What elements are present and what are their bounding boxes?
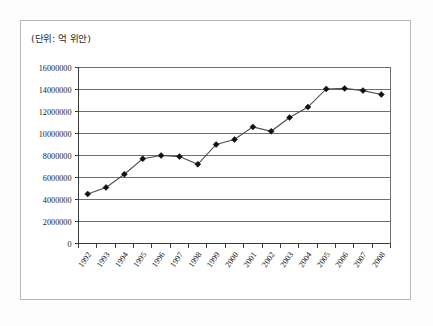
- y-tick-label: 4000000: [43, 196, 72, 205]
- data-point-marker: [378, 91, 384, 97]
- chart-svg: 0200000040000006000000800000010000000120…: [0, 0, 433, 326]
- x-tick-label: 1997: [168, 250, 185, 269]
- x-tick-label: 2005: [315, 250, 332, 269]
- x-tick-label: 1992: [77, 250, 94, 269]
- x-tick-label: 2000: [223, 250, 240, 269]
- y-tick-label: 8000000: [43, 152, 72, 161]
- x-tick-label: 1999: [205, 250, 222, 269]
- x-tick-label: 2001: [242, 250, 259, 269]
- axis-lines: [75, 68, 391, 248]
- y-tick-label: 6000000: [43, 174, 72, 183]
- x-tick-label: 2006: [333, 250, 350, 269]
- line-chart: 0200000040000006000000800000010000000120…: [0, 0, 433, 326]
- y-axis-tick-labels: 0200000040000006000000800000010000000120…: [39, 64, 72, 249]
- data-point-marker: [342, 85, 348, 91]
- data-point-marker: [158, 153, 164, 159]
- y-tick-label: 12000000: [39, 108, 72, 117]
- x-axis-tick-labels: 1992199319941995199619971998199920002001…: [77, 250, 387, 269]
- x-tick-label: 2002: [260, 250, 277, 269]
- gridlines-group: [79, 68, 391, 244]
- y-tick-label: 16000000: [39, 64, 72, 73]
- y-tick-label: 2000000: [43, 218, 72, 227]
- data-point-marker: [360, 88, 366, 94]
- y-tick-label: 10000000: [39, 130, 72, 139]
- data-point-markers: [85, 85, 385, 197]
- x-tick-label: 2004: [297, 250, 314, 269]
- x-tick-label: 1998: [187, 250, 204, 269]
- y-tick-label: 14000000: [39, 86, 72, 95]
- x-tick-label: 1993: [95, 250, 112, 269]
- x-tick-label: 2008: [370, 250, 387, 269]
- data-point-marker: [176, 154, 182, 160]
- x-tick-label: 1994: [113, 250, 130, 269]
- data-point-marker: [85, 191, 91, 197]
- x-tick-label: 2007: [352, 250, 369, 269]
- x-tick-label: 1996: [150, 250, 167, 269]
- x-tick-label: 2003: [278, 250, 295, 269]
- x-tick-label: 1995: [132, 250, 149, 269]
- y-tick-label: 0: [67, 240, 71, 249]
- figure-root: (단위: 억 위안) 02000000400000060000008000000…: [0, 0, 433, 326]
